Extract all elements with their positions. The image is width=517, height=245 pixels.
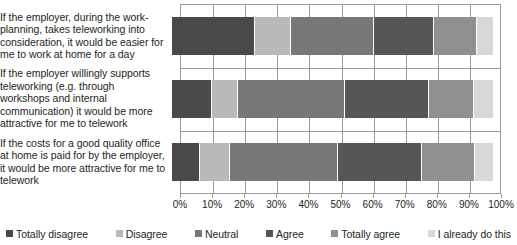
bar-segment-disagree [255,17,290,55]
legend-swatch-icon [195,230,202,237]
legend-swatch-icon [6,230,13,237]
category-label: If the employer, during the work-plannin… [0,11,172,61]
x-tick [276,194,277,198]
bar-segment-neutral [238,80,346,118]
legend-label: Disagree [126,228,168,240]
legend-swatch-icon [116,230,123,237]
legend-label: Neutral [205,228,239,240]
bar-cell [172,67,493,130]
x-tick [469,194,470,198]
x-tick-label: 60% [363,199,383,210]
x-tick [180,194,181,198]
bar-segment-totally-disagree [172,143,200,181]
chart-row: If the employer, during the work-plannin… [0,4,517,67]
chart-legend: Totally disagreeDisagreeNeutralAgreeTota… [0,222,517,245]
bar-cell [172,4,493,67]
bar-cell [172,130,493,193]
x-tick-label: 70% [395,199,415,210]
legend-swatch-icon [331,230,338,237]
x-tick-label: 40% [298,199,318,210]
category-label: If the costs for a good quality office a… [0,137,172,187]
plot-area: If the employer, during the work-plannin… [0,0,517,218]
bar-segment-totally-agree [434,17,477,55]
bar-segment-totally-agree [429,80,474,118]
legend-item[interactable]: Agree [266,228,304,240]
bar-segment-agree [338,143,423,181]
x-tick-label: 100% [488,199,514,210]
bar-segment-agree [374,17,434,55]
x-tick-label: 80% [427,199,447,210]
x-tick [373,194,374,198]
bar-segment-agree [345,80,428,118]
x-tick-label: 10% [202,199,222,210]
legend-item[interactable]: Totally disagree [6,228,88,240]
x-tick [341,194,342,198]
legend-label: I already do this [438,228,511,240]
bar-segment-totally-agree [422,143,475,181]
legend-label: Totally agree [341,228,400,240]
bar-segment-disagree [212,80,238,118]
legend-label: Totally disagree [16,228,88,240]
chart-row: If the costs for a good quality office a… [0,130,517,193]
stacked-bar [172,80,493,118]
x-tick [501,194,502,198]
stacked-bar [172,143,493,181]
x-tick [212,194,213,198]
x-tick [437,194,438,198]
chart-row: If the employer willingly supports telew… [0,67,517,130]
x-tick-label: 30% [266,199,286,210]
x-tick-label: 50% [330,199,350,210]
stacked-bar [172,17,493,55]
bar-segment-totally-disagree [172,17,255,55]
category-label: If the employer willingly supports telew… [0,67,172,129]
bar-segment-disagree [200,143,230,181]
x-tick [405,194,406,198]
stacked-bar-chart: If the employer, during the work-plannin… [0,0,517,245]
x-axis: 0%10%20%30%40%50%60%70%80%90%100% [180,194,501,216]
bar-segment-i-already-do-this [477,17,493,55]
bar-segment-neutral [291,17,374,55]
x-tick-label: 90% [459,199,479,210]
bar-segment-i-already-do-this [475,143,493,181]
legend-item[interactable]: I already do this [428,228,511,240]
x-tick-label: 20% [234,199,254,210]
legend-label: Agree [276,228,304,240]
legend-swatch-icon [266,230,273,237]
bar-segment-i-already-do-this [474,80,493,118]
legend-item[interactable]: Neutral [195,228,239,240]
bar-rows: If the employer, during the work-plannin… [0,4,517,193]
x-tick-label: 0% [173,199,187,210]
legend-item[interactable]: Totally agree [331,228,400,240]
legend-swatch-icon [428,230,435,237]
bar-segment-totally-disagree [172,80,212,118]
bar-segment-neutral [230,143,338,181]
legend-item[interactable]: Disagree [116,228,168,240]
x-tick [244,194,245,198]
x-tick [308,194,309,198]
